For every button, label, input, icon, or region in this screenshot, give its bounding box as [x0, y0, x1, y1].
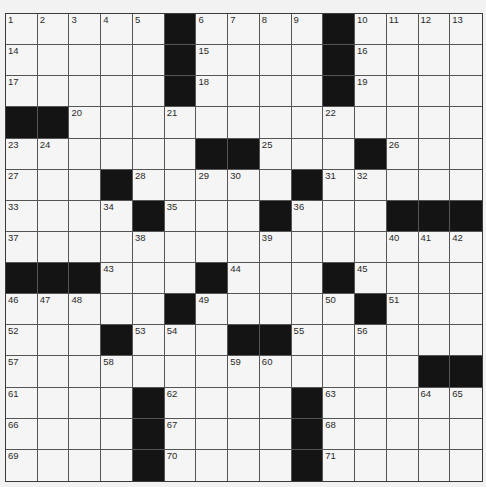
- grid-cell[interactable]: [355, 232, 387, 263]
- grid-cell[interactable]: 62: [165, 388, 197, 419]
- grid-cell[interactable]: 1: [6, 14, 38, 45]
- grid-cell[interactable]: [196, 356, 228, 387]
- grid-cell[interactable]: 32: [355, 170, 387, 201]
- grid-cell[interactable]: [387, 356, 419, 387]
- grid-cell[interactable]: [228, 201, 260, 232]
- grid-cell[interactable]: [292, 263, 324, 294]
- grid-cell[interactable]: [165, 263, 197, 294]
- grid-cell[interactable]: [69, 419, 101, 450]
- grid-cell[interactable]: [133, 107, 165, 138]
- grid-cell[interactable]: [355, 450, 387, 481]
- grid-cell[interactable]: [101, 388, 133, 419]
- grid-cell[interactable]: 59: [228, 356, 260, 387]
- grid-cell[interactable]: 31: [323, 170, 355, 201]
- grid-cell[interactable]: [450, 294, 482, 325]
- grid-cell[interactable]: 19: [355, 76, 387, 107]
- grid-cell[interactable]: 26: [387, 139, 419, 170]
- grid-cell[interactable]: [387, 450, 419, 481]
- grid-cell[interactable]: [38, 325, 70, 356]
- grid-cell[interactable]: [387, 170, 419, 201]
- grid-cell[interactable]: [196, 107, 228, 138]
- grid-cell[interactable]: 60: [260, 356, 292, 387]
- grid-cell[interactable]: 12: [419, 14, 451, 45]
- grid-cell[interactable]: [450, 325, 482, 356]
- grid-cell[interactable]: [419, 419, 451, 450]
- grid-cell[interactable]: [450, 263, 482, 294]
- grid-cell[interactable]: 58: [101, 356, 133, 387]
- grid-cell[interactable]: 5: [133, 14, 165, 45]
- grid-cell[interactable]: [38, 232, 70, 263]
- grid-cell[interactable]: [69, 450, 101, 481]
- grid-cell[interactable]: 35: [165, 201, 197, 232]
- grid-cell[interactable]: [387, 419, 419, 450]
- grid-cell[interactable]: [38, 388, 70, 419]
- grid-cell[interactable]: [323, 232, 355, 263]
- grid-cell[interactable]: [69, 201, 101, 232]
- grid-cell[interactable]: [69, 356, 101, 387]
- grid-cell[interactable]: [292, 76, 324, 107]
- grid-cell[interactable]: [69, 388, 101, 419]
- grid-cell[interactable]: [260, 263, 292, 294]
- grid-cell[interactable]: [69, 232, 101, 263]
- grid-cell[interactable]: [419, 76, 451, 107]
- grid-cell[interactable]: [69, 170, 101, 201]
- grid-cell[interactable]: 68: [323, 419, 355, 450]
- grid-cell[interactable]: [323, 201, 355, 232]
- grid-cell[interactable]: [260, 294, 292, 325]
- grid-cell[interactable]: [355, 388, 387, 419]
- grid-cell[interactable]: 29: [196, 170, 228, 201]
- grid-cell[interactable]: 20: [69, 107, 101, 138]
- grid-cell[interactable]: 33: [6, 201, 38, 232]
- grid-cell[interactable]: [228, 232, 260, 263]
- grid-cell[interactable]: 13: [450, 14, 482, 45]
- grid-cell[interactable]: [38, 45, 70, 76]
- grid-cell[interactable]: [387, 388, 419, 419]
- grid-cell[interactable]: [292, 294, 324, 325]
- grid-cell[interactable]: 42: [450, 232, 482, 263]
- grid-cell[interactable]: [355, 107, 387, 138]
- grid-cell[interactable]: 54: [165, 325, 197, 356]
- grid-cell[interactable]: [355, 356, 387, 387]
- grid-cell[interactable]: [101, 45, 133, 76]
- grid-cell[interactable]: 14: [6, 45, 38, 76]
- grid-cell[interactable]: 34: [101, 201, 133, 232]
- grid-cell[interactable]: 9: [292, 14, 324, 45]
- grid-cell[interactable]: 16: [355, 45, 387, 76]
- grid-cell[interactable]: [196, 419, 228, 450]
- grid-cell[interactable]: [38, 419, 70, 450]
- grid-cell[interactable]: [387, 263, 419, 294]
- grid-cell[interactable]: 52: [6, 325, 38, 356]
- grid-cell[interactable]: [196, 201, 228, 232]
- grid-cell[interactable]: [419, 170, 451, 201]
- grid-cell[interactable]: 48: [69, 294, 101, 325]
- grid-cell[interactable]: 6: [196, 14, 228, 45]
- grid-cell[interactable]: 67: [165, 419, 197, 450]
- grid-cell[interactable]: 39: [260, 232, 292, 263]
- grid-cell[interactable]: [38, 170, 70, 201]
- grid-cell[interactable]: [38, 76, 70, 107]
- grid-cell[interactable]: [228, 419, 260, 450]
- grid-cell[interactable]: 50: [323, 294, 355, 325]
- grid-cell[interactable]: [450, 45, 482, 76]
- grid-cell[interactable]: [38, 450, 70, 481]
- grid-cell[interactable]: 43: [101, 263, 133, 294]
- grid-cell[interactable]: [165, 170, 197, 201]
- grid-cell[interactable]: 40: [387, 232, 419, 263]
- grid-cell[interactable]: 17: [6, 76, 38, 107]
- grid-cell[interactable]: 28: [133, 170, 165, 201]
- grid-cell[interactable]: 55: [292, 325, 324, 356]
- grid-cell[interactable]: 61: [6, 388, 38, 419]
- grid-cell[interactable]: [419, 325, 451, 356]
- grid-cell[interactable]: [133, 45, 165, 76]
- grid-cell[interactable]: [450, 170, 482, 201]
- grid-cell[interactable]: 47: [38, 294, 70, 325]
- grid-cell[interactable]: [196, 388, 228, 419]
- grid-cell[interactable]: 64: [419, 388, 451, 419]
- grid-cell[interactable]: 11: [387, 14, 419, 45]
- grid-cell[interactable]: 24: [38, 139, 70, 170]
- grid-cell[interactable]: 57: [6, 356, 38, 387]
- grid-cell[interactable]: 4: [101, 14, 133, 45]
- grid-cell[interactable]: [260, 170, 292, 201]
- grid-cell[interactable]: [101, 232, 133, 263]
- grid-cell[interactable]: [450, 107, 482, 138]
